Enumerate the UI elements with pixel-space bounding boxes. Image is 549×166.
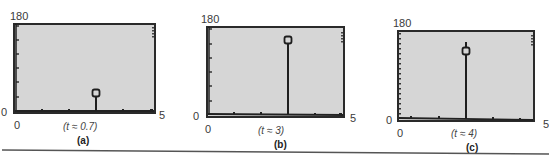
graph-screen — [0, 0, 183, 150]
graph-screen — [183, 0, 366, 150]
graph-panel-a: 180 0 5 0 (t ≈ 0.7) (a) — [0, 0, 183, 150]
graph-panel-c: 180 0 5 0 (t ≈ 4) (c) — [366, 0, 549, 150]
graph-panel-b: 180 0 5 0 (t ≈ 3) (b) — [183, 0, 366, 150]
graph-screen — [366, 0, 549, 150]
